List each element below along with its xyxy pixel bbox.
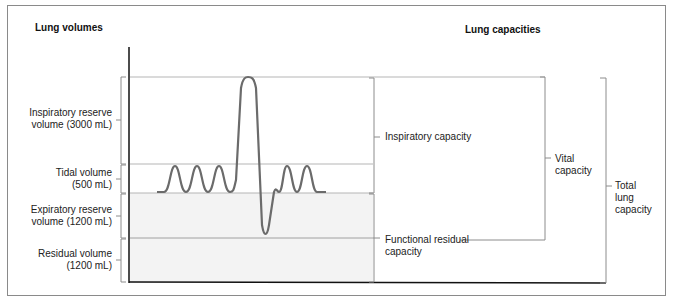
residual-volume-label: Residual volume (1200 mL) xyxy=(38,248,112,272)
inspiratory-capacity-label: Inspiratory capacity xyxy=(385,131,471,143)
frc-label: Functional residual capacity xyxy=(385,234,469,258)
tidal-volume-label: Tidal volume (500 mL) xyxy=(56,167,112,191)
x-axis xyxy=(129,282,606,283)
irv-label: Inspiratory reserve volume (3000 mL) xyxy=(29,107,112,131)
total-lung-capacity-label: Total lung capacity xyxy=(615,180,652,216)
erv-label: Expiratory reserve volume (1200 mL) xyxy=(31,204,112,228)
volume-brackets xyxy=(116,77,126,282)
lung-capacities-heading: Lung capacities xyxy=(465,24,541,35)
vital-capacity-label: Vital capacity xyxy=(555,153,592,177)
lung-volumes-heading: Lung volumes xyxy=(35,22,103,33)
